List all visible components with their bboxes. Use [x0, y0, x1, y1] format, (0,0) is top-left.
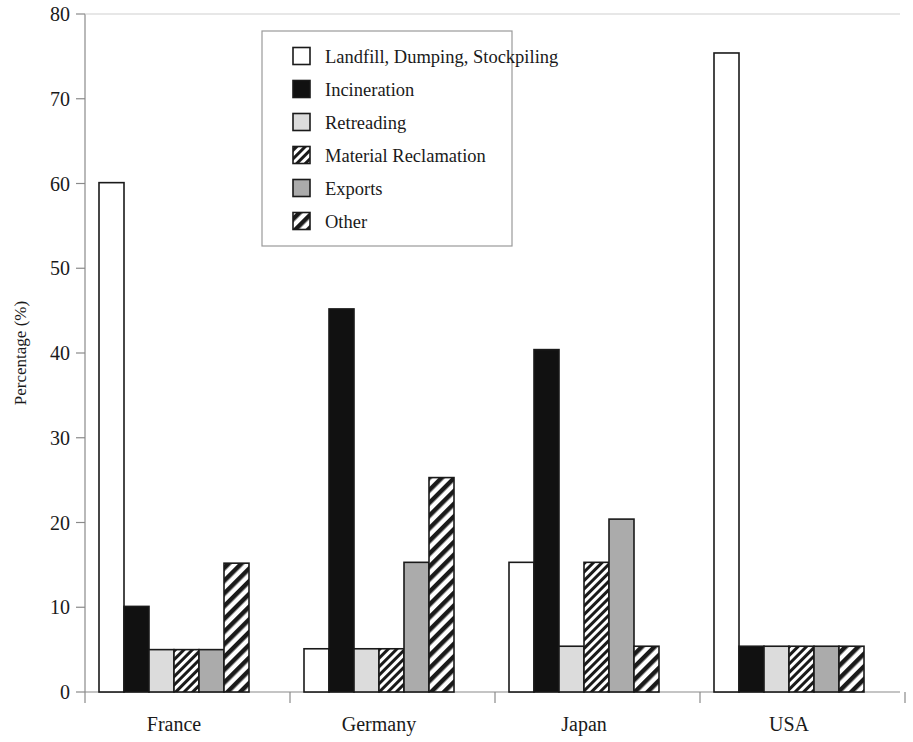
y-axis-tick-label: 70 [50, 88, 70, 110]
legend-swatch [293, 180, 310, 197]
bar [99, 183, 124, 692]
legend-label: Material Reclamation [325, 146, 486, 166]
bar [509, 562, 534, 692]
bar [739, 646, 764, 692]
y-axis-tick-label: 80 [50, 3, 70, 25]
bar [174, 650, 199, 692]
y-axis-tick-label: 50 [50, 257, 70, 279]
bar [789, 646, 814, 692]
bar [124, 606, 149, 692]
bar [329, 309, 354, 692]
y-axis-tick-label: 60 [50, 173, 70, 195]
chart-container: 01020304050607080 FranceGermanyJapanUSA … [0, 0, 913, 742]
bar [534, 350, 559, 692]
bar [584, 562, 609, 692]
bar [634, 646, 659, 692]
bar [149, 650, 174, 692]
legend-swatch [293, 114, 310, 131]
bar [764, 646, 789, 692]
x-axis-category-label: Japan [561, 713, 607, 736]
legend-swatch [293, 48, 310, 65]
bar [609, 519, 634, 692]
bar [404, 562, 429, 692]
bar [714, 53, 739, 692]
y-axis-tick-label: 20 [50, 512, 70, 534]
legend-swatch [293, 213, 310, 230]
legend-swatch [293, 147, 310, 164]
bar [839, 646, 864, 692]
y-axis-tick-label: 30 [50, 427, 70, 449]
y-axis-tick-label: 10 [50, 596, 70, 618]
legend-label: Other [325, 212, 367, 232]
bar [304, 649, 329, 692]
y-axis-title: Percentage (%) [11, 301, 30, 405]
bar [379, 649, 404, 692]
legend-label: Exports [325, 179, 383, 199]
bar [354, 649, 379, 692]
x-axis-category-label: USA [769, 713, 810, 735]
x-axis-category-label: Germany [342, 713, 416, 736]
bar [429, 478, 454, 692]
legend-label: Landfill, Dumping, Stockpiling [325, 47, 558, 67]
y-axis-tick-label: 0 [60, 681, 70, 703]
y-axis-tick-label: 40 [50, 342, 70, 364]
legend-label: Incineration [325, 80, 414, 100]
x-axis-category-label: France [147, 713, 202, 735]
legend-swatch [293, 81, 310, 98]
bar [559, 646, 584, 692]
bar [199, 650, 224, 692]
bar-chart: 01020304050607080 FranceGermanyJapanUSA … [0, 0, 913, 742]
bar [814, 646, 839, 692]
legend-label: Retreading [325, 113, 406, 133]
bar [224, 563, 249, 692]
